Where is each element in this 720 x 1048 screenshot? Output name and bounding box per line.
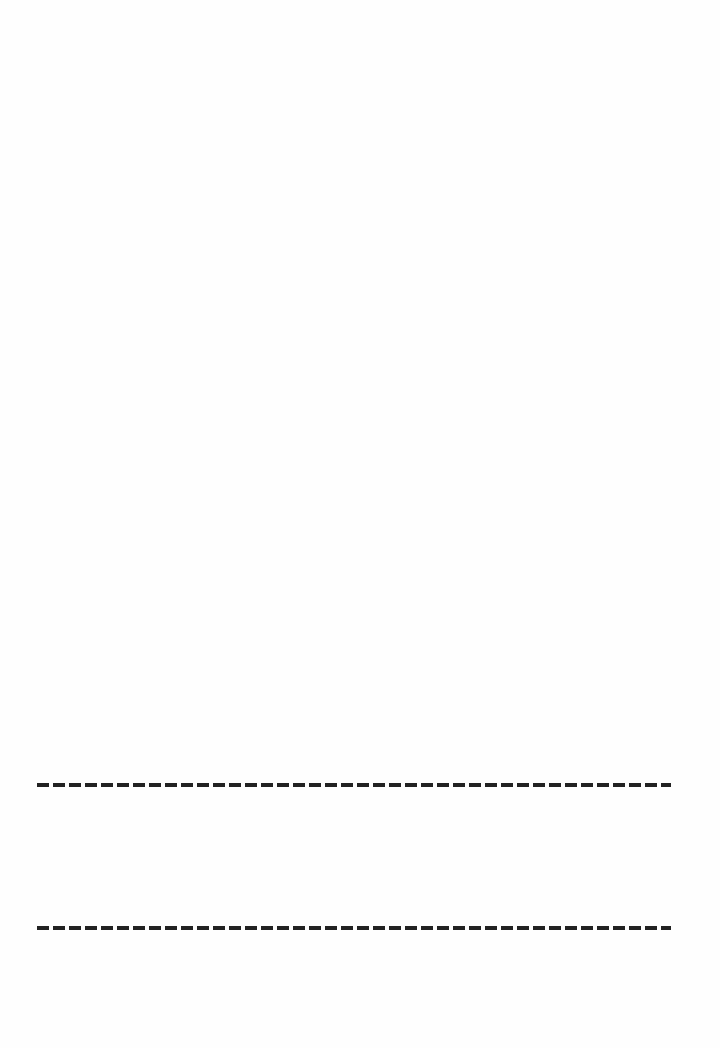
blank-page [0,0,720,1048]
dashed-separator-line [37,783,671,787]
dashed-separator-line [37,926,671,930]
